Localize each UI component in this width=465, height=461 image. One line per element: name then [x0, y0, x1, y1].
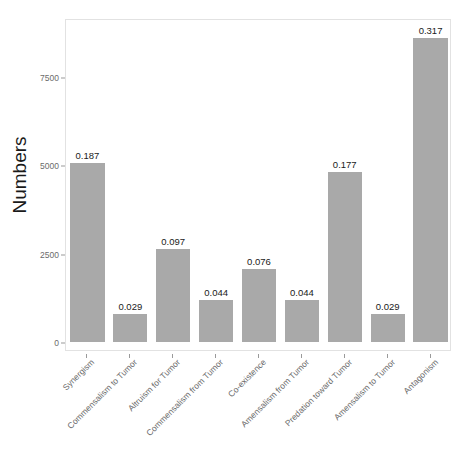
y-axis-title-text: Numbers: [9, 136, 31, 213]
bar-rect[interactable]: [328, 172, 362, 342]
bar-rect[interactable]: [285, 300, 319, 342]
bar[interactable]: 0.076: [242, 269, 276, 350]
bar[interactable]: 0.097: [156, 249, 190, 350]
bar-value-label: 0.177: [333, 159, 357, 170]
y-axis-tick-label: 7500: [40, 73, 59, 83]
bar-value-label: 0.029: [376, 301, 400, 312]
bar-rect[interactable]: [199, 300, 233, 342]
x-axis-tick-label: Co-existence: [226, 357, 268, 399]
bar[interactable]: 0.177: [328, 172, 362, 350]
bar-rect[interactable]: [156, 249, 190, 342]
plot-panel: 0.1870.0290.0970.0440.0760.0440.1770.029…: [65, 19, 451, 351]
bar-rect[interactable]: [70, 163, 104, 342]
x-axis-labels: SynergismCommensalism to TumorAltruism f…: [0, 357, 465, 461]
bar-value-label: 0.076: [247, 256, 271, 267]
bar-value-label: 0.317: [419, 25, 443, 36]
x-axis-tick-label: Synergism: [61, 357, 96, 392]
bar-value-label: 0.097: [161, 236, 185, 247]
y-axis-tick-label: 5000: [40, 161, 59, 171]
bar[interactable]: 0.317: [413, 38, 447, 350]
bar[interactable]: 0.187: [70, 163, 104, 350]
bar-value-label: 0.044: [290, 287, 314, 298]
y-axis-title: Numbers: [0, 0, 40, 350]
bar[interactable]: 0.044: [285, 300, 319, 350]
bar[interactable]: 0.029: [371, 314, 405, 350]
x-axis-tick-label: Commensalism from Tumor: [144, 357, 225, 438]
bar-value-label: 0.044: [204, 287, 228, 298]
bar-rect[interactable]: [371, 314, 405, 342]
x-axis-tick-label: Antagonism: [401, 357, 440, 396]
y-axis: 0250050007500: [36, 0, 65, 360]
bar-chart: Numbers 0250050007500 0.1870.0290.0970.0…: [0, 0, 465, 461]
bar[interactable]: 0.044: [199, 300, 233, 350]
y-axis-tick-label: 0: [54, 338, 59, 348]
bar-rect[interactable]: [242, 269, 276, 342]
bar-rect[interactable]: [113, 314, 147, 342]
bars-layer: 0.1870.0290.0970.0440.0760.0440.1770.029…: [66, 20, 450, 350]
bar-value-label: 0.187: [76, 150, 100, 161]
bar-value-label: 0.029: [118, 301, 142, 312]
y-axis-tick-label: 2500: [40, 250, 59, 260]
bar[interactable]: 0.029: [113, 314, 147, 350]
bar-rect[interactable]: [413, 38, 447, 342]
